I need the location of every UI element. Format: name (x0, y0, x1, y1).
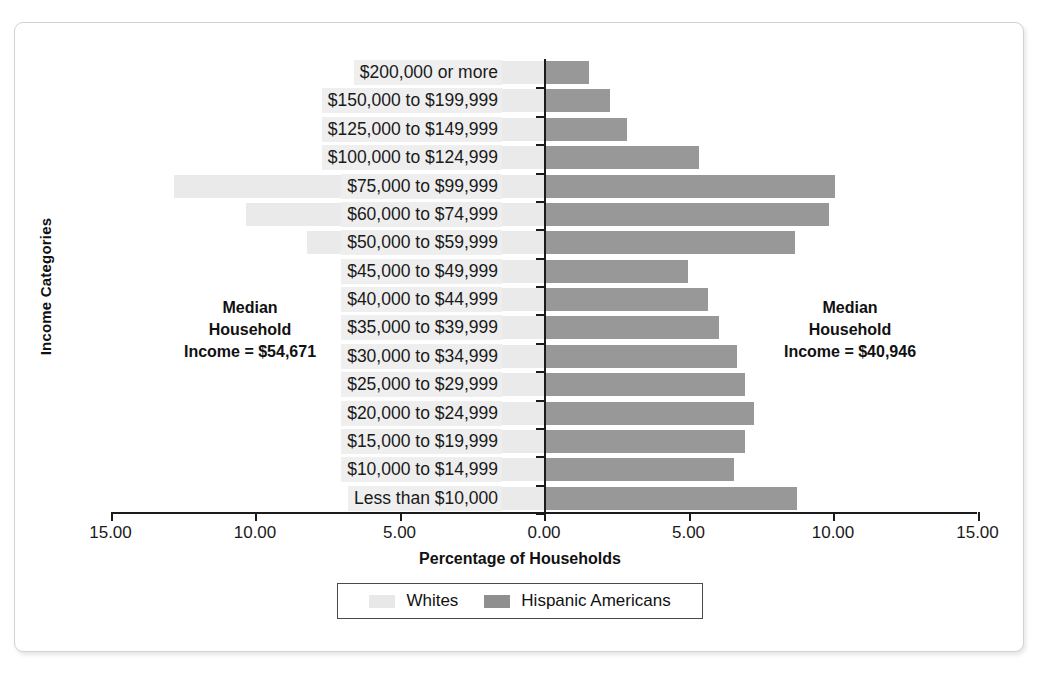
category-label: $45,000 to $49,999 (341, 259, 502, 284)
bar-row: $50,000 to $59,999 (15, 229, 1025, 257)
legend-label: Hispanic Americans (521, 591, 670, 611)
x-axis-tick-label: 10.00 (788, 523, 878, 543)
bar-row: $200,000 or more (15, 59, 1025, 87)
x-axis-tick (544, 512, 546, 521)
legend-swatch-icon (484, 595, 510, 608)
category-label: $10,000 to $14,999 (341, 457, 502, 482)
bar-row: Less than $10,000 (15, 485, 1025, 513)
y-axis-tick (536, 229, 544, 231)
bar-hispanic-americans (546, 458, 734, 481)
bar-rows-container: $200,000 or more$150,000 to $199,999$125… (15, 59, 1025, 513)
whites-median-annotation: Median Household Income = $54,671 (115, 297, 385, 363)
hispanic-median-annotation: Median Household Income = $40,946 (715, 297, 985, 363)
category-label: $125,000 to $149,999 (322, 117, 502, 142)
bar-hispanic-americans (546, 89, 610, 112)
bar-row: $20,000 to $24,999 (15, 400, 1025, 428)
x-axis-tick (978, 512, 980, 521)
bar-hispanic-americans (546, 61, 589, 84)
y-axis-tick (536, 144, 544, 146)
x-axis-tick-label: 5.00 (644, 523, 734, 543)
chart-legend: WhitesHispanic Americans (337, 583, 703, 619)
y-axis-tick (536, 456, 544, 458)
x-axis-tick-label: 10.00 (210, 523, 300, 543)
annot-left-line3: Income = $54,671 (115, 341, 385, 363)
y-axis-tick (536, 371, 544, 373)
bar-hispanic-americans (546, 316, 719, 339)
bar-hispanic-americans (546, 402, 754, 425)
bar-hispanic-americans (546, 175, 835, 198)
category-label: $100,000 to $124,999 (322, 145, 502, 170)
bar-hispanic-americans (546, 203, 829, 226)
y-axis-tick (536, 286, 544, 288)
chart-plot-area: Income Categories $200,000 or more$150,0… (15, 23, 1025, 653)
category-label: $200,000 or more (354, 60, 502, 85)
bar-hispanic-americans (546, 373, 745, 396)
y-axis-tick (536, 258, 544, 260)
y-axis-tick (536, 314, 544, 316)
x-axis-tick-label: 5.00 (355, 523, 445, 543)
category-label: $60,000 to $74,999 (341, 202, 502, 227)
x-axis-tick-label: 15.00 (933, 523, 1023, 543)
bar-hispanic-americans (546, 231, 795, 254)
bar-row: $10,000 to $14,999 (15, 456, 1025, 484)
y-axis-tick (536, 201, 544, 203)
zero-axis-line (544, 59, 546, 513)
x-axis-tick (111, 512, 113, 521)
x-axis-tick-label: 0.00 (499, 523, 589, 543)
x-axis-tick (689, 512, 691, 521)
bar-hispanic-americans (546, 260, 688, 283)
legend-item: Hispanic Americans (484, 591, 670, 611)
x-axis-tick (833, 512, 835, 521)
chart-frame: Income Categories $200,000 or more$150,0… (14, 22, 1024, 652)
bar-hispanic-americans (546, 345, 737, 368)
bar-hispanic-americans (546, 146, 699, 169)
annot-right-line3: Income = $40,946 (715, 341, 985, 363)
x-axis-label: Percentage of Households (15, 550, 1025, 568)
category-label: $25,000 to $29,999 (341, 372, 502, 397)
x-axis-tick (400, 512, 402, 521)
bar-row: $45,000 to $49,999 (15, 258, 1025, 286)
bar-row: $100,000 to $124,999 (15, 144, 1025, 172)
legend-label: Whites (406, 591, 458, 611)
legend-swatch-icon (369, 595, 395, 608)
y-axis-tick (536, 116, 544, 118)
bar-row: $75,000 to $99,999 (15, 173, 1025, 201)
category-label: $75,000 to $99,999 (341, 174, 502, 199)
bar-hispanic-americans (546, 288, 708, 311)
y-axis-tick (536, 485, 544, 487)
category-label: $20,000 to $24,999 (341, 401, 502, 426)
annot-left-line2: Household (115, 319, 385, 341)
bar-row: $125,000 to $149,999 (15, 116, 1025, 144)
x-axis-tick (255, 512, 257, 521)
category-label: $150,000 to $199,999 (322, 88, 502, 113)
y-axis-tick (536, 428, 544, 430)
y-axis-tick (536, 343, 544, 345)
y-axis-tick (536, 513, 544, 515)
y-axis-tick (536, 173, 544, 175)
bar-hispanic-americans (546, 487, 797, 510)
bar-whites (495, 61, 544, 84)
x-axis-tick-label: 15.00 (66, 523, 156, 543)
bar-hispanic-americans (546, 430, 745, 453)
bar-row: $25,000 to $29,999 (15, 371, 1025, 399)
bar-hispanic-americans (546, 118, 627, 141)
y-axis-tick (536, 400, 544, 402)
legend-item: Whites (369, 591, 458, 611)
annot-right-line2: Household (715, 319, 985, 341)
bar-row: $60,000 to $74,999 (15, 201, 1025, 229)
y-axis-tick (536, 87, 544, 89)
category-label: Less than $10,000 (348, 486, 502, 511)
category-label: $50,000 to $59,999 (341, 230, 502, 255)
annot-right-line1: Median (715, 297, 985, 319)
annot-left-line1: Median (115, 297, 385, 319)
bar-row: $150,000 to $199,999 (15, 87, 1025, 115)
category-label: $15,000 to $19,999 (341, 429, 502, 454)
bar-row: $15,000 to $19,999 (15, 428, 1025, 456)
